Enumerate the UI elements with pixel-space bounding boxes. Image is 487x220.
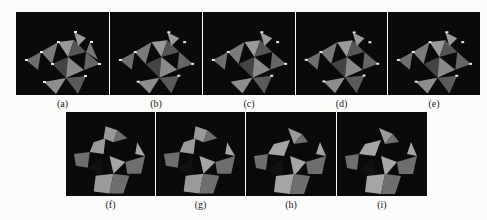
panel-b [110, 12, 202, 95]
panel-h [246, 112, 336, 196]
panel-f-label: (f) [66, 199, 155, 210]
polyhedra-render-icon [388, 12, 480, 95]
panel-c-label: (c) [203, 98, 295, 109]
panel-h-label: (h) [246, 199, 336, 210]
panel-a-label: (a) [16, 98, 109, 109]
panel-i-label: (i) [337, 199, 427, 210]
polyhedra-render-icon [246, 112, 336, 196]
polyhedra-render-icon [156, 112, 245, 196]
panel-f [66, 112, 155, 196]
panel-c [203, 12, 295, 95]
panel-e [388, 12, 480, 95]
panel-i [337, 112, 427, 196]
panel-d-label: (d) [296, 98, 387, 109]
polyhedra-render-icon [296, 12, 387, 95]
polyhedra-render-icon [66, 112, 155, 196]
panel-g-label: (g) [156, 199, 245, 210]
polyhedra-render-icon [203, 12, 295, 95]
polyhedra-render-icon [16, 12, 109, 95]
panel-d [296, 12, 387, 95]
panel-g [156, 112, 245, 196]
polyhedra-render-icon [337, 112, 427, 196]
panel-a [16, 12, 109, 95]
panel-e-label: (e) [388, 98, 480, 109]
panel-b-label: (b) [110, 98, 202, 109]
polyhedra-render-icon [110, 12, 202, 95]
